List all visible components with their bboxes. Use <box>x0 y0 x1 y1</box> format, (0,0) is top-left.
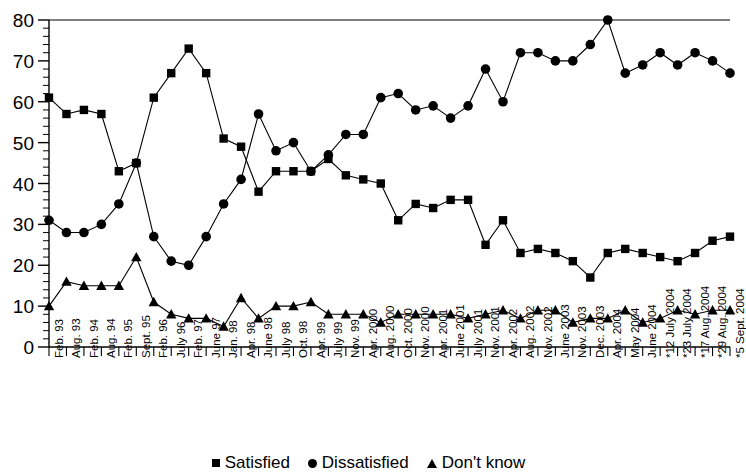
data-point-square[interactable] <box>62 110 70 118</box>
data-point-square[interactable] <box>167 69 175 77</box>
data-point-circle[interactable] <box>603 15 613 25</box>
data-point-square[interactable] <box>656 253 664 261</box>
data-point-square[interactable] <box>429 204 437 212</box>
data-point-square[interactable] <box>272 167 280 175</box>
y-axis-tick-label: 30 <box>13 214 34 235</box>
data-point-square[interactable] <box>80 106 88 114</box>
data-point-circle[interactable] <box>184 260 194 270</box>
data-point-circle[interactable] <box>446 113 456 123</box>
data-point-triangle[interactable] <box>306 297 316 306</box>
x-axis-tick-label: Nov. 99 <box>350 319 362 358</box>
data-point-triangle[interactable] <box>131 252 141 261</box>
x-axis-tick-label: July 2001 <box>473 309 485 358</box>
data-point-circle[interactable] <box>201 232 211 242</box>
data-point-square[interactable] <box>254 187 262 195</box>
y-axis-tick-label: 60 <box>13 92 34 113</box>
y-axis-tick-label: 70 <box>13 51 34 72</box>
data-point-circle[interactable] <box>655 48 665 58</box>
data-point-square[interactable] <box>464 196 472 204</box>
data-point-circle[interactable] <box>551 56 561 66</box>
data-point-square[interactable] <box>45 93 53 101</box>
legend-item-dissatisfied[interactable]: Dissatisfied <box>308 452 409 473</box>
legend-item-don-t-know[interactable]: Don't know <box>427 452 526 473</box>
data-point-square[interactable] <box>481 241 489 249</box>
data-point-circle[interactable] <box>463 101 473 111</box>
data-point-square[interactable] <box>446 196 454 204</box>
data-point-square[interactable] <box>708 237 716 245</box>
data-point-square[interactable] <box>359 175 367 183</box>
data-point-circle[interactable] <box>620 68 630 78</box>
data-point-circle[interactable] <box>533 48 543 58</box>
data-point-square[interactable] <box>184 44 192 52</box>
data-point-triangle[interactable] <box>149 297 159 306</box>
data-point-square[interactable] <box>586 273 594 281</box>
x-axis-tick-label: Feb. 95 <box>123 319 135 358</box>
x-axis-tick-label: Apr. 98 <box>246 322 258 358</box>
data-point-circle[interactable] <box>498 97 508 107</box>
x-axis-tick-label: July 98 <box>281 322 293 358</box>
data-point-circle[interactable] <box>114 199 124 209</box>
data-point-square[interactable] <box>115 167 123 175</box>
data-point-square[interactable] <box>342 171 350 179</box>
data-point-square[interactable] <box>691 249 699 257</box>
legend-item-satisfied[interactable]: Satisfied <box>212 452 290 473</box>
x-axis-tick-label: July 99 <box>333 322 345 358</box>
data-point-square[interactable] <box>673 257 681 265</box>
data-point-square[interactable] <box>219 134 227 142</box>
data-point-square[interactable] <box>726 232 734 240</box>
x-axis-tick-label: Nov. 2001 <box>490 306 502 358</box>
data-point-square[interactable] <box>569 257 577 265</box>
data-point-square[interactable] <box>394 216 402 224</box>
data-point-circle[interactable] <box>132 158 142 168</box>
data-point-square[interactable] <box>516 249 524 257</box>
data-point-triangle[interactable] <box>61 276 71 285</box>
data-point-circle[interactable] <box>481 64 491 74</box>
data-point-circle[interactable] <box>725 68 735 78</box>
data-point-circle[interactable] <box>324 150 334 160</box>
data-point-square[interactable] <box>202 69 210 77</box>
data-point-circle[interactable] <box>341 130 351 140</box>
data-point-circle[interactable] <box>690 48 700 58</box>
data-point-square[interactable] <box>289 167 297 175</box>
data-point-circle[interactable] <box>62 228 72 238</box>
x-axis-tick-label: *17 Aug. 2004 <box>700 286 712 358</box>
data-point-circle[interactable] <box>376 93 386 103</box>
data-point-square[interactable] <box>377 179 385 187</box>
data-point-square[interactable] <box>551 249 559 257</box>
data-point-circle[interactable] <box>428 101 438 111</box>
data-point-circle[interactable] <box>79 228 89 238</box>
data-point-circle[interactable] <box>236 175 246 185</box>
data-point-circle[interactable] <box>359 130 369 140</box>
data-point-square[interactable] <box>534 245 542 253</box>
data-point-triangle[interactable] <box>166 309 176 318</box>
data-point-square[interactable] <box>150 93 158 101</box>
data-point-circle[interactable] <box>411 105 421 115</box>
series-line-satisfied <box>49 49 730 278</box>
data-point-circle[interactable] <box>149 232 159 242</box>
data-point-circle[interactable] <box>568 56 578 66</box>
data-point-circle[interactable] <box>254 109 264 119</box>
data-point-circle[interactable] <box>586 40 596 50</box>
data-point-circle[interactable] <box>673 60 683 70</box>
data-point-circle[interactable] <box>271 146 281 156</box>
data-point-circle[interactable] <box>44 215 54 225</box>
data-point-square[interactable] <box>621 245 629 253</box>
data-point-square[interactable] <box>411 200 419 208</box>
data-point-circle[interactable] <box>97 220 107 230</box>
data-point-square[interactable] <box>97 110 105 118</box>
data-point-circle[interactable] <box>638 60 648 70</box>
data-point-square[interactable] <box>604 249 612 257</box>
data-point-circle[interactable] <box>393 89 403 99</box>
data-point-circle[interactable] <box>166 256 176 266</box>
data-point-circle[interactable] <box>708 56 718 66</box>
data-point-circle[interactable] <box>289 138 299 148</box>
data-point-circle[interactable] <box>516 48 526 58</box>
data-point-square[interactable] <box>499 216 507 224</box>
data-point-square[interactable] <box>638 249 646 257</box>
data-point-square[interactable] <box>237 143 245 151</box>
data-point-circle[interactable] <box>219 199 229 209</box>
data-point-triangle[interactable] <box>236 293 246 302</box>
triangle-marker-icon <box>427 459 437 468</box>
y-axis-tick-label: 0 <box>23 337 34 358</box>
data-point-circle[interactable] <box>306 166 316 176</box>
